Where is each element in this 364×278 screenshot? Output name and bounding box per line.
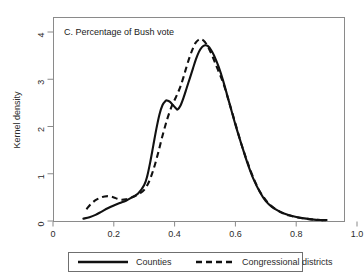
y-tick-label: 3 (36, 80, 46, 85)
legend-label-congressional-districts: Congressional districts (242, 257, 333, 267)
x-tick-label: 0.6 (229, 229, 242, 239)
curve-counties (83, 45, 326, 220)
density-curves (83, 39, 326, 220)
legend-label-counties: Counties (136, 257, 172, 267)
plot-frame (54, 18, 345, 222)
y-axis-title: Kernel density (12, 91, 22, 149)
y-tick-label: 1 (36, 174, 46, 179)
chart-figure: 01234 00.20.40.60.81.0 Kernel density C.… (0, 0, 364, 278)
x-axis-ticks: 00.20.40.60.81.0 (50, 222, 363, 240)
y-tick-label: 4 (36, 32, 46, 37)
x-tick-label: 0.8 (290, 229, 303, 239)
x-tick-label: 1.0 (351, 229, 364, 239)
x-tick-label: 0 (50, 229, 55, 239)
chart-legend: Counties Congressional districts (69, 253, 334, 272)
curve-congressional-districts (86, 39, 326, 220)
panel-title: C. Percentage of Bush vote (64, 27, 174, 37)
y-axis-ticks: 01234 (36, 32, 54, 227)
kernel-density-chart: 01234 00.20.40.60.81.0 Kernel density C.… (0, 0, 364, 278)
y-tick-label: 0 (36, 221, 46, 226)
x-tick-label: 0.4 (168, 229, 181, 239)
x-tick-label: 0.2 (108, 229, 121, 239)
y-tick-label: 2 (36, 127, 46, 132)
